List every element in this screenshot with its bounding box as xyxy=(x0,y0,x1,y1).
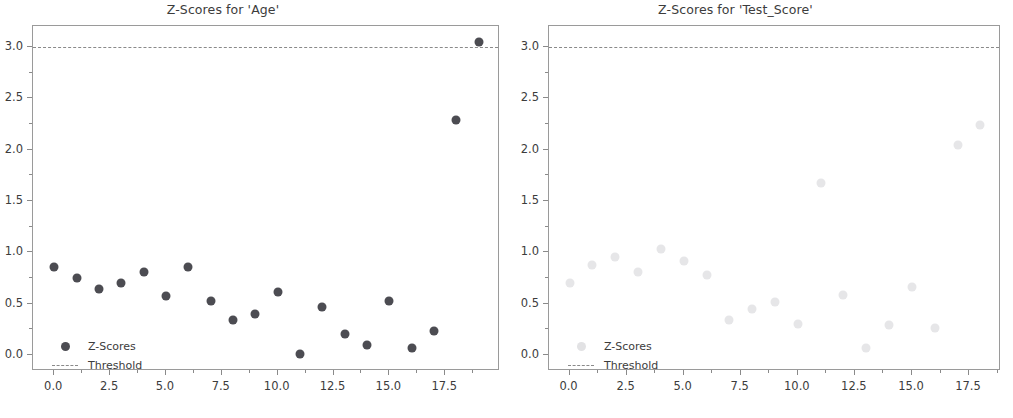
dashed-line-icon xyxy=(564,365,598,366)
x-tick xyxy=(333,370,334,375)
legend-item-scores: Z-Scores xyxy=(564,337,658,356)
y-tick-label: 3.0 xyxy=(503,39,539,53)
x-tick xyxy=(740,370,741,375)
x-tick xyxy=(444,370,445,375)
scatter-marker-icon xyxy=(48,342,82,351)
x-tick-minor xyxy=(249,370,250,373)
x-tick-label: 10.0 xyxy=(264,379,290,393)
x-tick-minor xyxy=(768,370,769,373)
y-tick-minor xyxy=(29,277,32,278)
data-point xyxy=(363,340,372,349)
plot-area-test-score xyxy=(548,25,1000,370)
data-point xyxy=(771,297,780,306)
x-tick-minor xyxy=(305,370,306,373)
data-point xyxy=(930,324,939,333)
x-tick-label: 0.0 xyxy=(559,379,577,393)
y-tick-label: 0.5 xyxy=(503,296,539,310)
y-tick-label: 2.0 xyxy=(0,142,23,156)
x-tick-label: 12.5 xyxy=(841,379,867,393)
data-point xyxy=(976,121,985,130)
x-tick-label: 15.0 xyxy=(376,379,402,393)
x-tick-minor xyxy=(711,370,712,373)
y-tick-minor xyxy=(545,226,548,227)
dashed-line-icon xyxy=(48,365,82,366)
x-tick-label: 7.5 xyxy=(212,379,230,393)
x-tick xyxy=(277,370,278,375)
x-tick-label: 2.5 xyxy=(616,379,634,393)
y-tick-minor xyxy=(29,328,32,329)
data-point xyxy=(385,296,394,305)
x-tick xyxy=(797,370,798,375)
x-tick-minor xyxy=(882,370,883,373)
legend-item-threshold: Threshold xyxy=(48,356,142,375)
y-tick xyxy=(27,251,32,252)
data-point xyxy=(907,283,916,292)
legend-age: Z-Scores Threshold xyxy=(48,337,142,375)
y-tick xyxy=(543,46,548,47)
y-tick-minor xyxy=(545,123,548,124)
threshold-line-test-score xyxy=(549,47,999,48)
data-point xyxy=(748,304,757,313)
data-point xyxy=(139,267,148,276)
data-point xyxy=(452,115,461,124)
data-point xyxy=(94,285,103,294)
x-tick-label: 12.5 xyxy=(320,379,346,393)
legend-label-scores: Z-Scores xyxy=(598,340,652,353)
y-tick-minor xyxy=(29,174,32,175)
legend-label-scores: Z-Scores xyxy=(82,340,136,353)
data-point xyxy=(340,329,349,338)
x-tick-label: 5.0 xyxy=(674,379,692,393)
x-tick-minor xyxy=(940,370,941,373)
data-point xyxy=(228,316,237,325)
x-tick-label: 17.5 xyxy=(955,379,981,393)
x-tick xyxy=(911,370,912,375)
x-tick-minor xyxy=(416,370,417,373)
data-point xyxy=(953,140,962,149)
x-tick-minor xyxy=(193,370,194,373)
y-tick xyxy=(27,97,32,98)
data-point xyxy=(839,290,848,299)
y-tick-label: 1.5 xyxy=(0,193,23,207)
data-point xyxy=(318,302,327,311)
x-tick xyxy=(854,370,855,375)
data-point xyxy=(679,256,688,265)
legend-label-threshold: Threshold xyxy=(82,359,142,372)
x-tick xyxy=(683,370,684,375)
x-tick-minor xyxy=(997,370,998,373)
x-tick xyxy=(221,370,222,375)
x-tick xyxy=(968,370,969,375)
y-tick xyxy=(27,200,32,201)
data-point xyxy=(862,343,871,352)
data-point xyxy=(184,262,193,271)
y-tick-label: 1.0 xyxy=(503,244,539,258)
y-tick-minor xyxy=(545,277,548,278)
x-tick xyxy=(388,370,389,375)
y-tick-label: 1.0 xyxy=(0,244,23,258)
y-tick-minor xyxy=(545,328,548,329)
y-tick xyxy=(543,251,548,252)
data-point xyxy=(72,274,81,283)
data-point xyxy=(611,252,620,261)
subplot-test-score: Z-Scores for 'Test_Score' 0.00.51.01.52.… xyxy=(510,0,1013,418)
data-point xyxy=(161,291,170,300)
y-tick-label: 0.0 xyxy=(503,347,539,361)
y-tick-minor xyxy=(29,226,32,227)
data-point xyxy=(273,288,282,297)
y-tick xyxy=(543,97,548,98)
x-tick-minor xyxy=(825,370,826,373)
x-tick-label: 7.5 xyxy=(731,379,749,393)
page-title: Z-Scores for 'Age' xyxy=(0,2,478,17)
y-tick-label: 2.0 xyxy=(503,142,539,156)
data-point xyxy=(702,270,711,279)
x-tick-label: 5.0 xyxy=(156,379,174,393)
data-point xyxy=(656,245,665,254)
data-point xyxy=(588,260,597,269)
data-point xyxy=(50,262,59,271)
y-tick-label: 0.0 xyxy=(0,347,23,361)
y-tick xyxy=(543,200,548,201)
y-tick-minor xyxy=(29,123,32,124)
y-tick xyxy=(27,46,32,47)
scatter-marker-icon xyxy=(564,342,598,351)
data-point xyxy=(816,178,825,187)
data-point xyxy=(565,279,574,288)
